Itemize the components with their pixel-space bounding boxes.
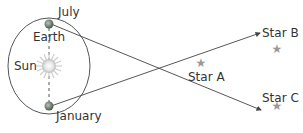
label-sun: Sun	[14, 60, 37, 72]
label-earth: Earth	[33, 31, 65, 43]
star-a-icon: ★	[196, 56, 207, 70]
label-january: January	[56, 110, 102, 122]
sight-line-january	[51, 33, 260, 106]
sun-icon	[36, 53, 62, 79]
sight-line-july	[51, 24, 261, 110]
label-star-a: Star A	[188, 71, 225, 83]
earth-july-icon	[45, 20, 54, 29]
earth-january-icon	[45, 102, 54, 111]
star-b-icon: ★	[272, 42, 283, 56]
label-july: July	[58, 6, 80, 18]
label-star-c: Star C	[262, 92, 299, 104]
parallax-diagram: ★ ★ ★	[0, 0, 303, 133]
label-star-b: Star B	[262, 27, 299, 39]
